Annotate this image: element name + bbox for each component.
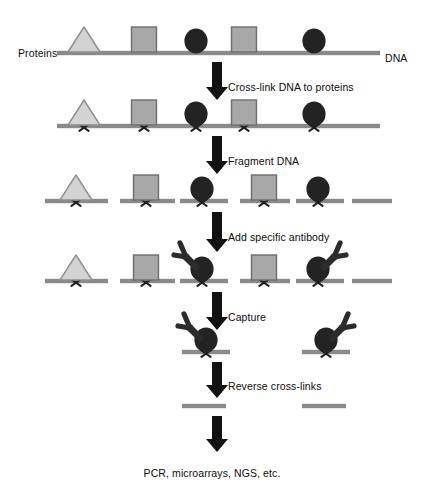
arrow-body (206, 416, 228, 452)
arrow-reverse-label: Reverse cross-links (228, 380, 322, 392)
protein-square (132, 100, 157, 125)
protein-square (252, 175, 277, 200)
arrow-add-antibody-label: Add specific antibody (228, 231, 329, 243)
antibody-hinge (331, 254, 338, 261)
row-intact-chromatin (57, 27, 380, 55)
dna-strand-segment (57, 51, 380, 55)
antibody-hinge (187, 325, 194, 332)
protein-circle (184, 102, 207, 127)
arrow-fragment (206, 136, 228, 174)
arrow-capture (206, 292, 228, 330)
protein-square (134, 255, 159, 280)
dna-strand-segment (352, 279, 392, 283)
arrow-capture-label: Capture (228, 311, 266, 323)
protein-square (232, 100, 257, 125)
antibody-glyph (174, 243, 196, 267)
row-crosslinked (57, 100, 380, 131)
arrow-body (206, 212, 228, 252)
arrow-body (206, 292, 228, 330)
arrow-fragment-label: Fragment DNA (228, 155, 299, 167)
arrow-crosslink (206, 62, 228, 100)
protein-triangle (60, 175, 92, 200)
protein-circle (190, 177, 213, 202)
arrow-body (206, 62, 228, 100)
dna-strand-segment (352, 199, 392, 203)
protein-triangle (68, 27, 100, 52)
protein-triangle (60, 255, 92, 280)
protein-triangle (68, 100, 100, 125)
chip-workflow-diagram: Cross-link DNA to proteinsFragment DNAAd… (0, 0, 422, 482)
arrow-body (206, 136, 228, 174)
dna-label: DNA (385, 52, 407, 64)
protein-square (252, 255, 277, 280)
protein-circle (306, 177, 329, 202)
antibody-hinge (339, 325, 346, 332)
protein-square (134, 175, 159, 200)
antibody-glyph (332, 314, 354, 338)
antibody-glyph (324, 243, 346, 267)
arrow-to-analysis (206, 416, 228, 452)
row-purified-dna (182, 404, 346, 408)
diagram-canvas (0, 0, 422, 482)
row-fragmented (45, 175, 392, 206)
outcome-label: PCR, microarrays, NGS, etc. (144, 467, 281, 479)
dna-strand-segment (182, 404, 226, 408)
arrow-crosslink-label: Cross-link DNA to proteins (228, 81, 354, 93)
antibody-glyph (178, 314, 200, 338)
arrow-body (206, 362, 228, 398)
arrow-reverse (206, 362, 228, 398)
dna-strand-segment (302, 404, 346, 408)
protein-square (232, 27, 257, 52)
arrow-add-antibody (206, 212, 228, 252)
dna-strand-segment (57, 124, 380, 128)
protein-circle (184, 29, 207, 54)
protein-circle (302, 29, 325, 54)
protein-square (132, 27, 157, 52)
protein-circle (302, 102, 325, 127)
proteins-label: Proteins (18, 47, 57, 59)
antibody-hinge (183, 254, 190, 261)
